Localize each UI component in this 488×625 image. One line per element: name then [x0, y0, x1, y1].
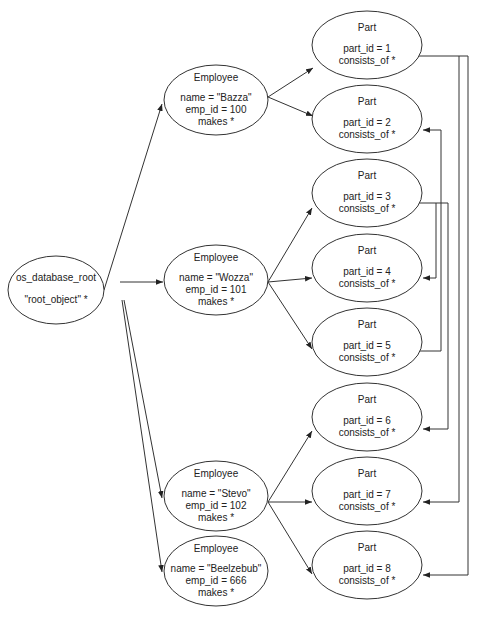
root-ellipse [8, 256, 104, 324]
employee-emp-id: emp_id = 100 [186, 104, 247, 115]
part-title: Part [358, 245, 377, 256]
part-node-4: Part part_id = 4 consists_of * [312, 234, 422, 302]
part-node-1: Part part_id = 1 consists_of * [312, 11, 422, 79]
employee-name: name = "Beelzebub" [171, 563, 262, 574]
part-node-6: Part part_id = 6 consists_of * [312, 383, 422, 451]
part-consists-of: consists_of * [339, 203, 396, 214]
part-id: part_id = 4 [343, 266, 391, 277]
part-consists-of: consists_of * [339, 129, 396, 140]
employee-name: name = "Wozza" [179, 272, 253, 283]
part-title: Part [358, 319, 377, 330]
edge-bazza-to-part-2 [268, 97, 313, 116]
employee-makes: makes * [198, 116, 234, 127]
employee-makes: makes * [198, 512, 234, 523]
employee-node-wozza: Employee name = "Wozza" emp_id = 101 mak… [164, 245, 268, 315]
edge-part-5-to-part-2 [413, 130, 441, 351]
part-consists-of: consists_of * [339, 55, 396, 66]
employee-name: name = "Stevo" [181, 488, 251, 499]
part-id: part_id = 8 [343, 563, 391, 574]
edge-wozza-to-part-4 [268, 278, 312, 282]
employee-emp-id: emp_id = 666 [186, 575, 247, 586]
part-id: part_id = 3 [343, 191, 391, 202]
employee-emp-id: emp_id = 102 [186, 500, 247, 511]
part-title: Part [358, 542, 377, 553]
root-title: os_database_root [16, 272, 96, 283]
part-node-5: Part part_id = 5 consists_of * [312, 308, 422, 376]
employee-title: Employee [194, 72, 239, 83]
part-node-7: Part part_id = 7 consists_of * [312, 457, 422, 525]
part-title: Part [358, 170, 377, 181]
part-id: part_id = 1 [343, 43, 391, 54]
part-node-3: Part part_id = 3 consists_of * [312, 159, 422, 227]
part-consists-of: consists_of * [339, 352, 396, 363]
part-consists-of: consists_of * [339, 575, 396, 586]
employee-title: Employee [194, 543, 239, 554]
employee-emp-id: emp_id = 101 [186, 284, 247, 295]
edge-root-to-bazza [104, 104, 162, 290]
edge-root-to-stevo [124, 300, 162, 498]
edge-part-1-to-part-8 [423, 56, 468, 575]
object-graph-diagram: os_database_root "root_object" * Employe… [0, 0, 488, 625]
edge-wozza-to-part-3 [268, 208, 312, 282]
employee-node-beelzebub: Employee name = "Beelzebub" emp_id = 666… [164, 536, 268, 606]
part-consists-of: consists_of * [339, 427, 396, 438]
part-node-2: Part part_id = 2 consists_of * [312, 85, 422, 153]
employee-makes: makes * [198, 296, 234, 307]
part-node-8: Part part_id = 8 consists_of * [312, 531, 422, 599]
employee-node-bazza: Employee name = "Bazza" emp_id = 100 mak… [164, 65, 268, 135]
part-title: Part [358, 22, 377, 33]
edges-employees-to-parts [268, 68, 313, 574]
edges-root-to-employees [104, 104, 163, 572]
edge-stevo-to-part-8 [268, 502, 312, 574]
part-id: part_id = 2 [343, 117, 391, 128]
part-title: Part [358, 468, 377, 479]
part-title: Part [358, 96, 377, 107]
employee-node-stevo: Employee name = "Stevo" emp_id = 102 mak… [164, 461, 268, 531]
part-id: part_id = 7 [343, 489, 391, 500]
root-node: os_database_root "root_object" * [8, 256, 104, 324]
edge-wozza-to-part-5 [268, 282, 312, 349]
employee-title: Employee [194, 252, 239, 263]
part-id: part_id = 5 [343, 340, 391, 351]
root-attr: "root_object" * [24, 294, 87, 305]
part-title: Part [358, 394, 377, 405]
edge-stevo-to-part-6 [268, 431, 312, 502]
edge-bazza-to-part-1 [268, 68, 313, 97]
part-consists-of: consists_of * [339, 501, 396, 512]
employee-makes: makes * [198, 587, 234, 598]
employee-title: Employee [194, 468, 239, 479]
edge-root-to-beelzebub [122, 300, 162, 572]
part-consists-of: consists_of * [339, 278, 396, 289]
part-id: part_id = 6 [343, 415, 391, 426]
employee-name: name = "Bazza" [180, 92, 252, 103]
